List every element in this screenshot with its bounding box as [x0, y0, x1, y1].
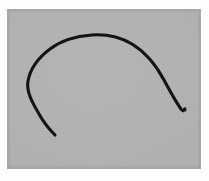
- arc-stroke[interactable]: [28, 35, 185, 135]
- drawing-canvas[interactable]: [8, 10, 200, 168]
- ink-layer: [8, 10, 200, 168]
- sketch-image-root: A single black hand-drawn open curved li…: [0, 0, 209, 181]
